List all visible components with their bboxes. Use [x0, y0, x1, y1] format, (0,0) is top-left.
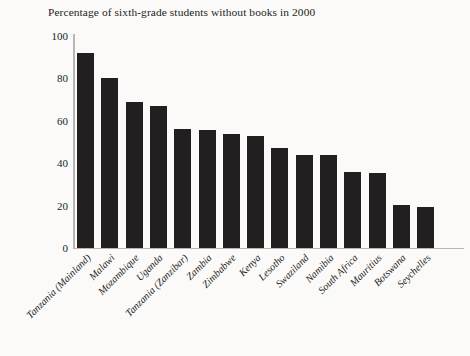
- x-category-label: Tanzania (Mainland): [24, 252, 93, 321]
- bar-chart: Percentage of sixth-grade students witho…: [0, 0, 470, 356]
- x-axis-category-labels: Tanzania (Mainland)MalawiMozambiqueUgand…: [0, 0, 470, 356]
